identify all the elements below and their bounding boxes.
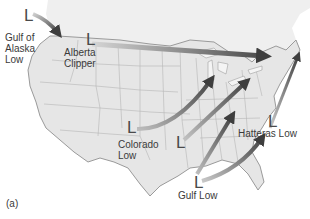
label-line: Colorado [118,139,159,150]
low-marker-colorado: L [127,119,136,136]
label-line: Hatteras Low [238,128,297,139]
label-colorado-low: Colorado Low [118,139,159,161]
label-line: Gulf Low [178,190,217,201]
panel-label: (a) [6,198,18,209]
label-line: Low [5,54,35,65]
label-hatteras-low: Hatteras Low [238,128,297,139]
label-gulf-low: Gulf Low [178,190,217,201]
low-marker-gulf-of-alaska: L [24,7,33,24]
label-line: Low [118,150,159,161]
label-gulf-of-alaska-low: Gulf of Alaska Low [5,32,35,65]
label-line: Clipper [64,58,96,69]
low-marker-alberta-clipper: L [86,31,95,48]
low-marker-gulf: L [194,174,203,191]
north-america-map [0,0,310,219]
label-line: Alaska [5,43,35,54]
label-alberta-clipper: Alberta Clipper [64,47,96,69]
low-marker-ohio-valley: L [176,134,185,151]
label-line: Gulf of [5,32,35,43]
label-line: Alberta [64,47,96,58]
